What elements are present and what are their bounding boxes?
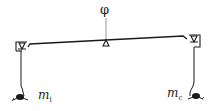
left-suspension-wire xyxy=(21,51,24,96)
right-hanger-bracket xyxy=(189,35,200,47)
angle-label: φ xyxy=(100,2,109,17)
right-mass-subscript: c xyxy=(178,94,182,102)
left-mass-symbol: m xyxy=(38,88,49,102)
left-mass-icon xyxy=(12,94,28,101)
beam xyxy=(28,36,187,47)
right-mass-symbol: m xyxy=(167,86,178,100)
right-knife-edge-icon xyxy=(191,36,197,42)
left-knife-edge-icon xyxy=(19,43,25,49)
balance-diagram: φ ml mc xyxy=(0,0,215,111)
right-mass-label: mc xyxy=(167,86,182,102)
left-mass-label: ml xyxy=(38,88,52,104)
right-suspension-wire xyxy=(190,47,194,96)
left-mass-subscript: l xyxy=(49,96,51,104)
left-hanger-bracket xyxy=(16,42,27,51)
pivot-fulcrum-icon xyxy=(103,40,109,46)
